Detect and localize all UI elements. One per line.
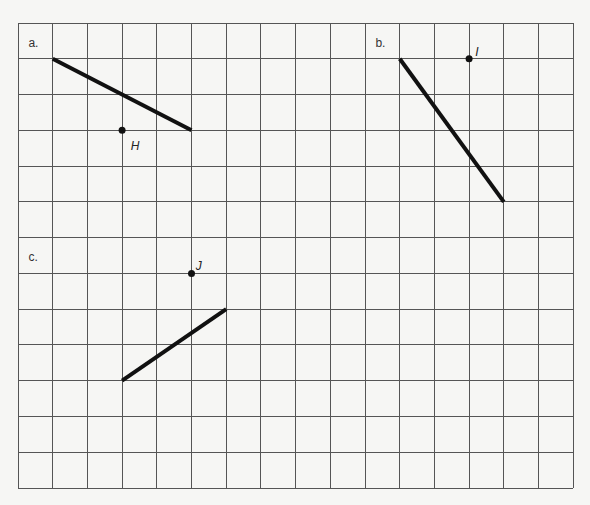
point-i-marker — [466, 55, 473, 62]
part-c-label: c. — [28, 250, 37, 264]
point-j-marker — [188, 270, 195, 277]
part-b: b. I — [375, 36, 503, 202]
point-h-label: H — [131, 139, 140, 153]
point-j-label: J — [195, 259, 203, 273]
grid-diagram: a. H b. I c. J — [0, 0, 590, 505]
grid-lines — [18, 23, 573, 488]
point-h-marker — [119, 127, 126, 134]
part-a-label: a. — [28, 36, 38, 50]
point-i-label: I — [475, 45, 479, 59]
part-c: c. J — [28, 250, 226, 380]
part-b-label: b. — [375, 36, 385, 50]
